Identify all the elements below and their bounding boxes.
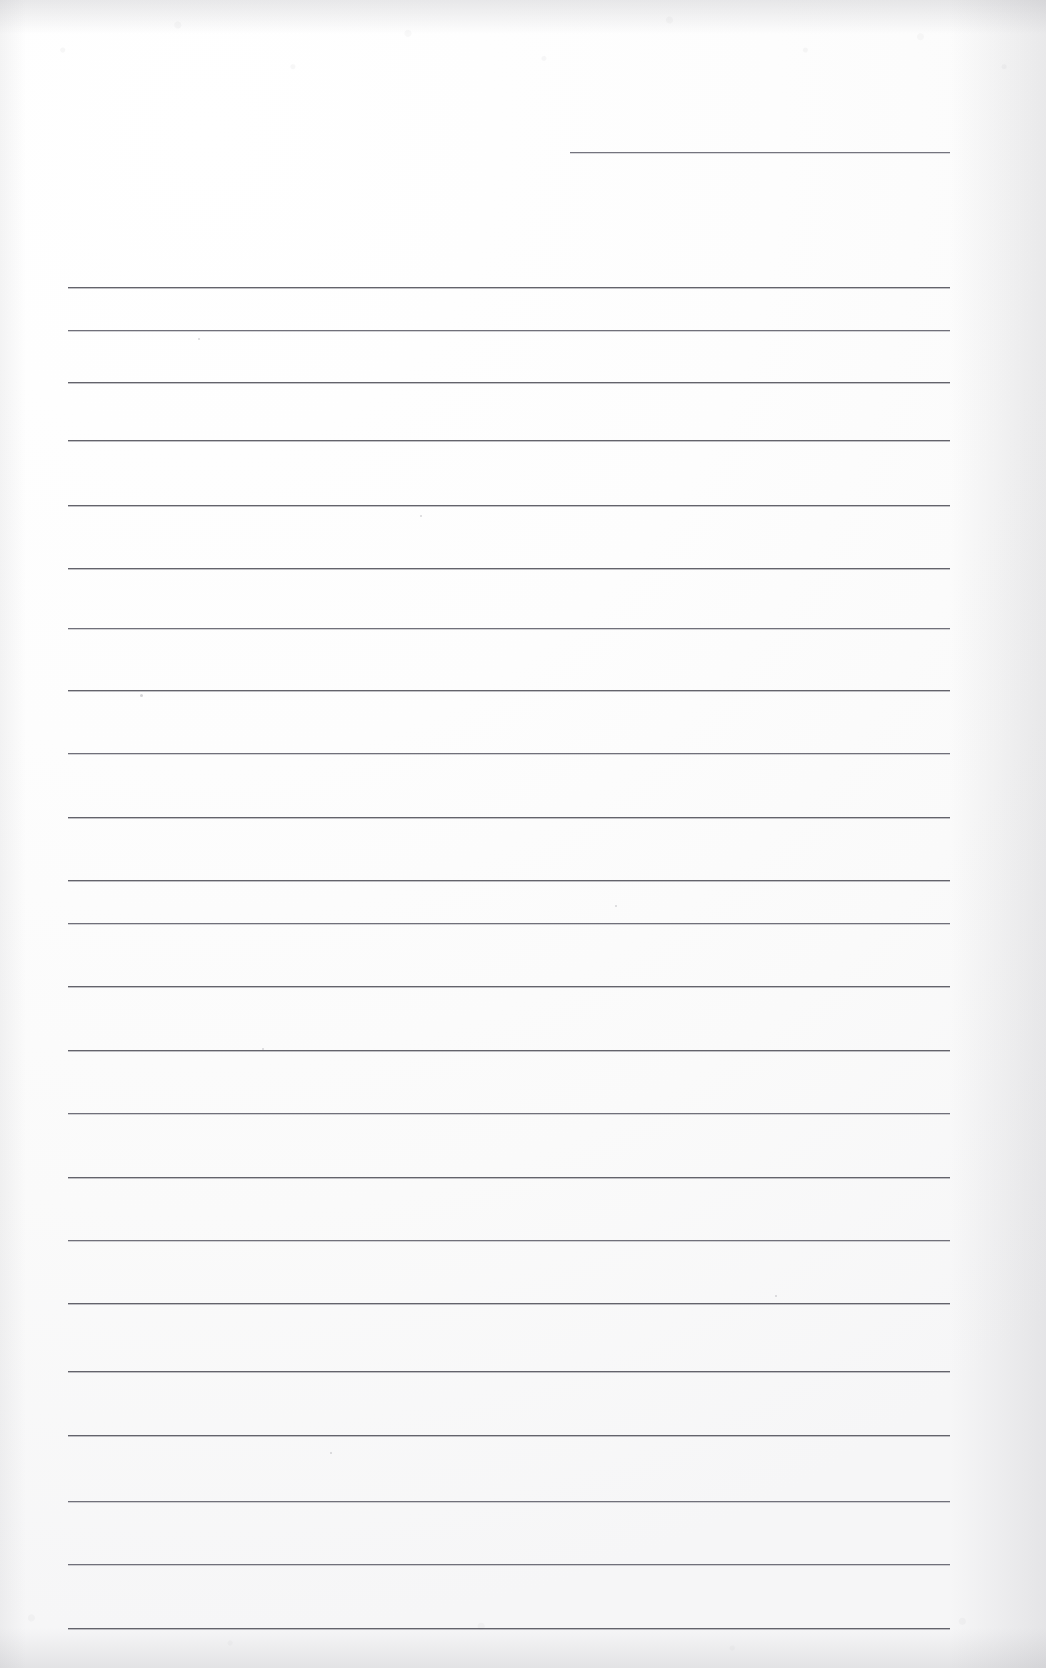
ruled-line xyxy=(68,1628,950,1629)
partial-ruled-line-top-right xyxy=(570,152,950,153)
ruled-line xyxy=(68,628,950,629)
ruled-line xyxy=(68,1240,950,1241)
ruled-line xyxy=(68,923,950,924)
ruled-line xyxy=(68,568,950,569)
scanned-page xyxy=(0,0,1046,1668)
ruled-line xyxy=(68,1303,950,1304)
ruled-line xyxy=(68,1371,950,1372)
ruled-line xyxy=(68,1435,950,1436)
ruled-line xyxy=(68,986,950,987)
ruled-line xyxy=(68,330,950,331)
ruled-line xyxy=(68,440,950,441)
ruled-line xyxy=(68,817,950,818)
ruled-line xyxy=(68,1564,950,1565)
paper-background xyxy=(0,0,1046,1668)
ruled-line xyxy=(68,1177,950,1178)
ruled-line xyxy=(68,382,950,383)
ruled-line xyxy=(68,1050,950,1051)
ruled-line xyxy=(68,1113,950,1114)
ruled-line xyxy=(68,690,950,691)
ruled-line xyxy=(68,1501,950,1502)
ruled-line xyxy=(68,505,950,506)
ruled-line xyxy=(68,287,950,288)
ruled-line xyxy=(68,753,950,754)
ruled-line xyxy=(68,880,950,881)
